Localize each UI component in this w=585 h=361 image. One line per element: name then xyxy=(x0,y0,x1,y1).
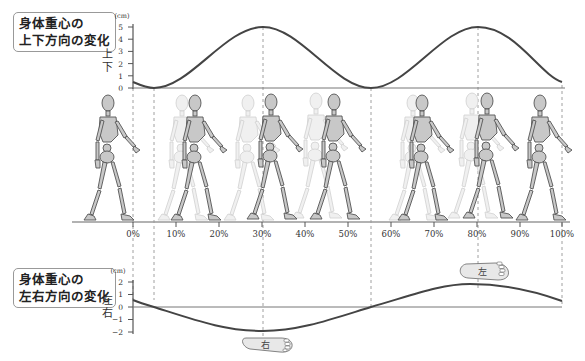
tick-0: 0% xyxy=(126,229,140,239)
tick-50: 50% xyxy=(339,229,358,239)
svg-text:3: 3 xyxy=(118,47,123,56)
left-foot-icon: 左 xyxy=(460,262,508,280)
tick-20: 20% xyxy=(210,229,229,239)
svg-text:−1: −1 xyxy=(112,315,123,324)
svg-text:(cm): (cm) xyxy=(115,12,130,20)
svg-text:右: 右 xyxy=(261,339,270,350)
bottom-chart: 2 1 0 −1 −2 (cm) 左 右 右 xyxy=(102,262,563,352)
tick-100: 100% xyxy=(550,229,574,239)
svg-text:左: 左 xyxy=(102,294,113,307)
svg-text:2: 2 xyxy=(118,60,123,69)
svg-text:1: 1 xyxy=(118,290,123,299)
tick-90: 90% xyxy=(511,229,530,239)
svg-text:0: 0 xyxy=(118,84,123,93)
vertical-cog-curve xyxy=(133,27,562,88)
svg-text:2: 2 xyxy=(118,278,123,287)
tick-30: 30% xyxy=(253,229,272,239)
svg-text:0: 0 xyxy=(118,303,123,312)
svg-text:左: 左 xyxy=(478,266,487,277)
tick-70: 70% xyxy=(425,229,444,239)
svg-text:上: 上 xyxy=(102,48,113,61)
tick-40: 40% xyxy=(296,229,315,239)
right-foot-icon: 右 xyxy=(243,338,293,352)
svg-text:1: 1 xyxy=(118,72,123,81)
tick-10: 10% xyxy=(167,229,186,239)
tick-60: 60% xyxy=(382,229,401,239)
svg-text:(cm): (cm) xyxy=(111,267,126,275)
svg-text:下: 下 xyxy=(102,61,113,74)
gait-diagram: 0 1 2 3 4 5 (cm) 上 下 xyxy=(0,0,585,361)
top-chart: 0 1 2 3 4 5 (cm) 上 下 xyxy=(102,12,566,93)
dashed-guides xyxy=(133,27,562,345)
svg-text:5: 5 xyxy=(118,23,123,32)
tick-80: 80% xyxy=(468,229,487,239)
svg-text:−2: −2 xyxy=(112,328,123,337)
svg-text:4: 4 xyxy=(118,35,123,44)
svg-text:右: 右 xyxy=(102,306,113,320)
walking-figures xyxy=(84,93,572,220)
